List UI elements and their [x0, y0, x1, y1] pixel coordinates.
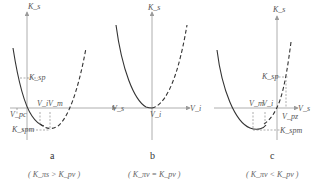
panel-b — [112, 12, 190, 140]
condition-c: ( K_πv < K_pv ) — [246, 170, 299, 179]
panel-a — [10, 12, 116, 140]
caption-c: c — [270, 150, 274, 161]
k-sp-label-c: K_sp — [262, 72, 278, 81]
y-axis-label-b: K_s — [148, 3, 160, 12]
x-axis-label-b: V_i — [190, 104, 201, 113]
v-m-label-c: V_m — [249, 99, 264, 108]
condition-b: ( K_πv = K_pv ) — [128, 170, 181, 179]
solid-curve — [217, 50, 266, 129]
diagram-figure — [0, 0, 316, 189]
y-axis-label-a: K_s — [28, 2, 40, 11]
v-pc-label-a: V_pc — [10, 110, 26, 119]
k-spm-label-c: K_spm — [280, 126, 302, 135]
solid-curve — [116, 25, 152, 108]
caption-a: a — [50, 150, 54, 161]
x-axis-label-c: V_s — [298, 104, 310, 113]
x-axis-label-a: V_s — [112, 104, 124, 113]
condition-a: ( K_πs > K_pv ) — [28, 170, 80, 179]
v-m-label-a: V_m — [48, 99, 63, 108]
k-sp-label-a: K_sp — [29, 73, 45, 82]
panel-c — [214, 16, 298, 140]
v-pz-label-c: V_pz — [282, 112, 298, 121]
caption-b: b — [150, 150, 155, 161]
y-axis-label-c: K_s — [273, 5, 285, 14]
k-spm-label-a: K_spm — [12, 125, 34, 134]
v-i-label-b: V_i — [150, 110, 161, 119]
dashed-curve — [40, 48, 86, 128]
dashed-curve — [152, 25, 187, 108]
v-i-label-a: V_i — [37, 99, 48, 108]
